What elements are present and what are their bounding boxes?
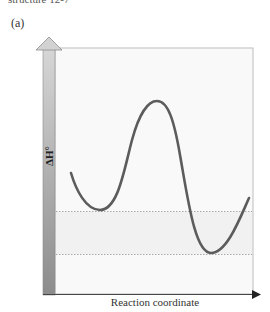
y-axis-label: ΔH° (43, 146, 55, 166)
x-axis-label: Reaction coordinate (0, 296, 270, 308)
energy-diagram (0, 0, 270, 312)
plot-frame (55, 48, 253, 294)
